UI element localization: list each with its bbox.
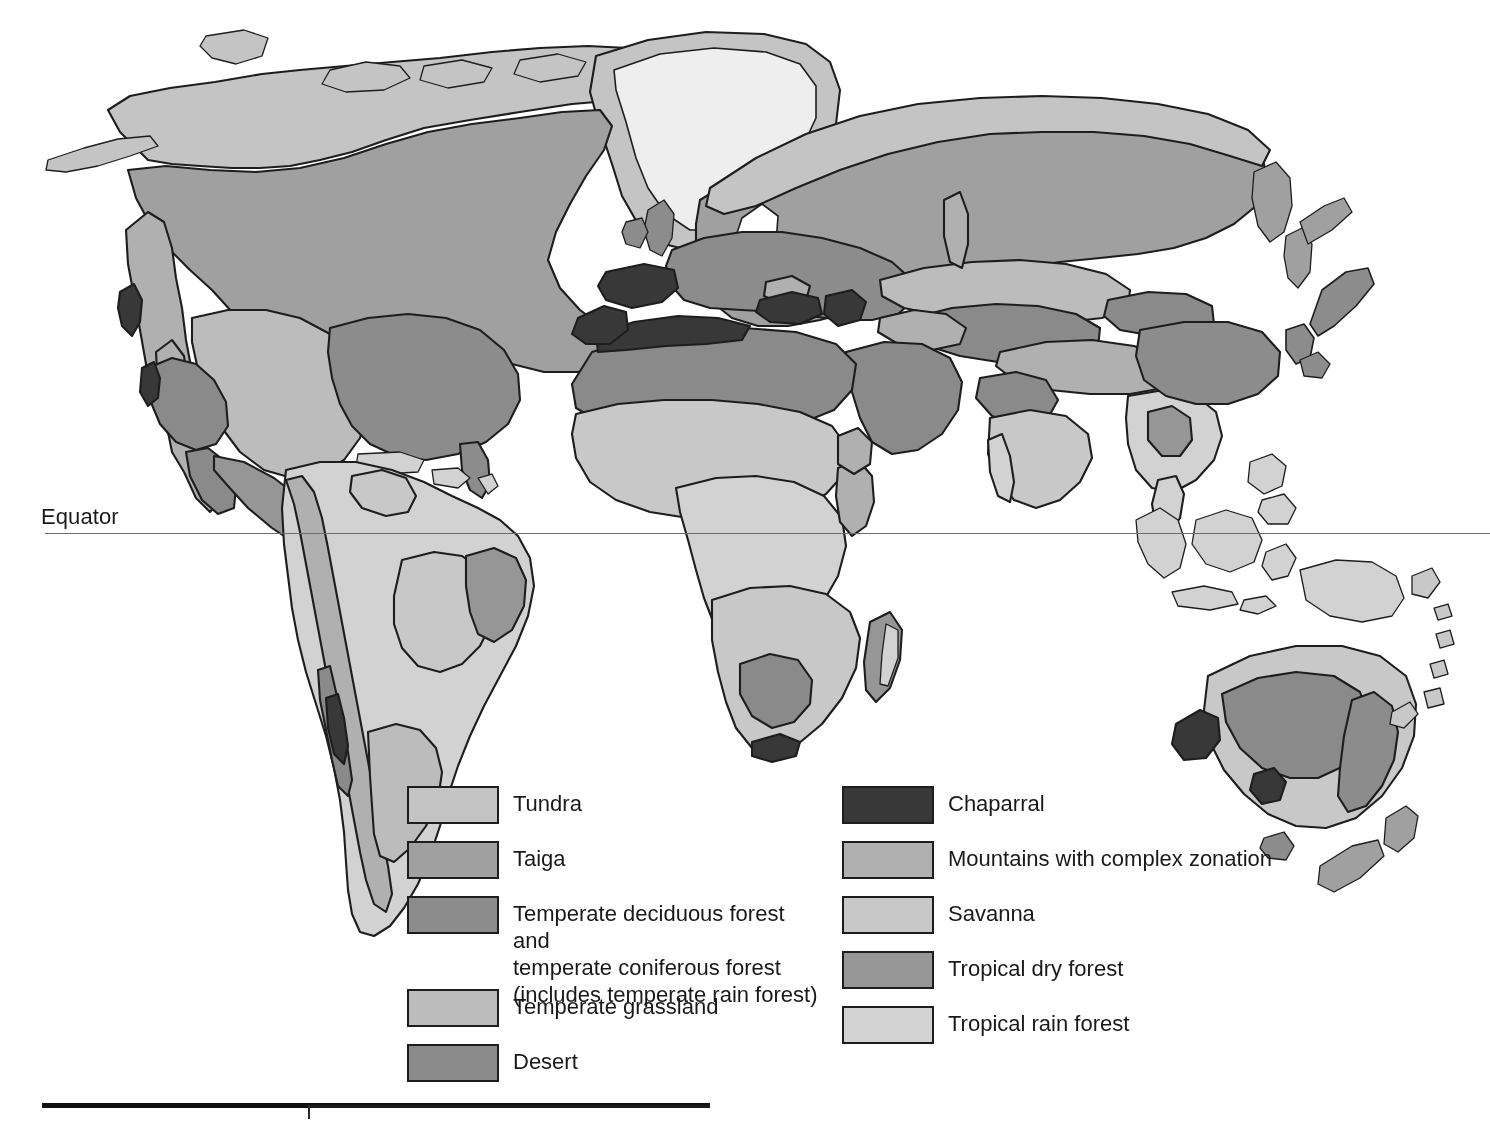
legend-label-temperate-grassland: Temperate grassland — [513, 989, 718, 1020]
legend-item-savanna[interactable]: Savanna — [842, 896, 1035, 934]
region-pacific-islet-c — [1430, 660, 1448, 678]
legend-swatch-temperate-grassland — [407, 989, 499, 1027]
bottom-rule-tick — [308, 1105, 310, 1119]
legend-label-savanna: Savanna — [948, 896, 1035, 927]
region-pacific-islet-b — [1436, 630, 1454, 648]
legend-swatch-temperate-forest — [407, 896, 499, 934]
legend-item-desert[interactable]: Desert — [407, 1044, 578, 1082]
bottom-rule-thin — [310, 1105, 710, 1108]
region-levant-chaparral — [824, 290, 866, 326]
legend-swatch-mountains — [842, 841, 934, 879]
legend-swatch-savanna — [842, 896, 934, 934]
legend-item-tropical-rain-forest[interactable]: Tropical rain forest — [842, 1006, 1129, 1044]
legend-label-desert: Desert — [513, 1044, 578, 1075]
legend-swatch-tundra — [407, 786, 499, 824]
legend-label-chaparral: Chaparral — [948, 786, 1045, 817]
legend-item-chaparral[interactable]: Chaparral — [842, 786, 1045, 824]
region-pacific-islet-d — [1424, 688, 1444, 708]
legend-item-taiga[interactable]: Taiga — [407, 841, 566, 879]
legend-item-mountains[interactable]: Mountains with complex zonation — [842, 841, 1272, 879]
legend-item-tropical-dry-forest[interactable]: Tropical dry forest — [842, 951, 1123, 989]
legend-label-tropical-dry-forest: Tropical dry forest — [948, 951, 1123, 982]
legend-item-tundra[interactable]: Tundra — [407, 786, 582, 824]
legend-swatch-chaparral — [842, 786, 934, 824]
legend-label-tundra: Tundra — [513, 786, 582, 817]
legend-item-temperate-grassland[interactable]: Temperate grassland — [407, 989, 718, 1027]
legend-label-mountains: Mountains with complex zonation — [948, 841, 1272, 872]
legend-swatch-tropical-dry-forest — [842, 951, 934, 989]
equator-line — [45, 533, 1490, 534]
legend-label-tropical-rain-forest: Tropical rain forest — [948, 1006, 1129, 1037]
legend-swatch-taiga — [407, 841, 499, 879]
legend-label-taiga: Taiga — [513, 841, 566, 872]
legend-swatch-tropical-rain-forest — [842, 1006, 934, 1044]
legend-swatch-desert — [407, 1044, 499, 1082]
equator-label: Equator — [41, 504, 119, 530]
biome-map-figure: .ln { fill:none; stroke:#1d1d1d; stroke-… — [0, 0, 1490, 1130]
